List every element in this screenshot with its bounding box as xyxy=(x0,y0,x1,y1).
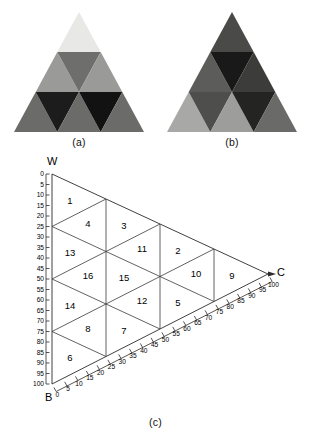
bottom-axis-tick-label: 85 xyxy=(237,297,245,304)
panel-b-svg xyxy=(167,8,297,133)
bottom-axis-tick-label: 50 xyxy=(162,336,170,343)
ternary-cell-number: 6 xyxy=(67,352,72,363)
left-axis-tick-label: 20 xyxy=(37,212,45,219)
ternary-cell-number: 9 xyxy=(229,270,234,281)
panel-a-svg xyxy=(14,8,144,133)
caption-b: (b) xyxy=(167,136,297,148)
bottom-axis-tick-label: 10 xyxy=(75,380,83,387)
left-axis-tick-label: 90 xyxy=(37,359,45,366)
vertex-label-w: W xyxy=(47,155,58,167)
bottom-axis-tick-label: 65 xyxy=(194,319,202,326)
ternary-cell-number: 8 xyxy=(85,323,90,334)
left-axis-tick-label: 40 xyxy=(37,254,45,261)
ternary-cell-number: 15 xyxy=(119,272,130,283)
ternary-cell-numbers: 13421113910151651214786 xyxy=(65,195,235,363)
ternary-cell-number: 12 xyxy=(137,295,148,306)
left-axis-tick-label: 0 xyxy=(40,170,44,177)
left-axis-tick-label: 5 xyxy=(40,181,44,188)
left-axis-tick-label: 80 xyxy=(37,338,45,345)
ternary-svg: W B C 0510152025303540455055606570758085… xyxy=(0,152,311,414)
bottom-axis-tick-label: 100 xyxy=(268,281,279,288)
ternary-cell-number: 7 xyxy=(121,325,126,336)
bottom-axis-tick-label: 35 xyxy=(129,352,137,359)
left-axis-tick-label: 65 xyxy=(37,307,45,314)
bottom-axis-tick-label: 95 xyxy=(259,286,267,293)
bottom-axis-tick-label: 45 xyxy=(151,341,159,348)
ternary-cell-number: 2 xyxy=(175,245,180,256)
panel-a-triangle xyxy=(14,8,144,133)
caption-c: (c) xyxy=(0,416,311,428)
left-axis-tick-label: 15 xyxy=(37,202,45,209)
ternary-cell-number: 10 xyxy=(191,268,202,279)
bottom-axis-tick-label: 55 xyxy=(173,330,181,337)
left-axis-tick-label: 55 xyxy=(37,286,45,293)
bottom-axis-tick-label: 20 xyxy=(97,369,105,376)
vertex-label-b: B xyxy=(45,391,52,403)
bottom-axis-tick-label: 75 xyxy=(216,308,224,315)
bottom-axis-tick-label: 30 xyxy=(119,358,127,365)
left-axis-tick-label: 100 xyxy=(33,380,44,387)
vertex-label-c: C xyxy=(277,266,285,278)
ternary-cell-number: 14 xyxy=(65,300,76,311)
panel-a-cell-0 xyxy=(57,12,100,52)
left-axis-tick-label: 50 xyxy=(37,275,45,282)
panel-b-triangle xyxy=(167,8,297,133)
ternary-cell-number: 13 xyxy=(65,247,76,258)
panel-b-cell-0 xyxy=(210,12,253,52)
left-axis-tick-label: 45 xyxy=(37,265,45,272)
bottom-axis-tick-label: 15 xyxy=(86,374,94,381)
left-axis-tick-label: 85 xyxy=(37,349,45,356)
left-axis-tick-label: 60 xyxy=(37,296,45,303)
ternary-cell-number: 11 xyxy=(137,243,147,254)
left-axis-tick-label: 30 xyxy=(37,233,45,240)
bottom-axis-tick-label: 40 xyxy=(140,347,148,354)
panel-a-cells xyxy=(14,12,144,132)
ternary-grid-line-b xyxy=(52,332,106,357)
panel-c-ternary-diagram: W B C 0510152025303540455055606570758085… xyxy=(0,152,311,414)
left-axis-tick-label: 95 xyxy=(37,370,45,377)
left-axis: 0510152025303540455055606570758085909510… xyxy=(33,170,50,387)
ternary-cell-number: 5 xyxy=(175,297,180,308)
panel-b-cells xyxy=(167,12,297,132)
ternary-cell-number: 4 xyxy=(85,218,90,229)
ternary-cell-number: 1 xyxy=(67,195,72,206)
ternary-cell-number: 3 xyxy=(121,220,126,231)
bottom-axis-tick-label: 80 xyxy=(227,303,235,310)
left-axis-tick-label: 70 xyxy=(37,317,45,324)
bottom-axis-tick-label: 70 xyxy=(205,314,213,321)
bottom-axis-tick-label: 5 xyxy=(66,385,70,392)
caption-a: (a) xyxy=(14,136,144,148)
bottom-axis-tick-label: 90 xyxy=(248,292,256,299)
bottom-axis-tick-label: 25 xyxy=(108,363,116,370)
ternary-cell-number: 16 xyxy=(83,270,94,281)
left-axis-tick-label: 35 xyxy=(37,244,45,251)
figure-root: (a) (b) W B C 05101520253035404 xyxy=(0,0,311,444)
bottom-axis-tick-label: 60 xyxy=(183,325,191,332)
ternary-grid-line-w xyxy=(52,199,106,227)
left-axis-tick-label: 25 xyxy=(37,223,45,230)
left-axis-tick-label: 75 xyxy=(37,328,45,335)
left-axis-tick-label: 10 xyxy=(37,191,45,198)
bottom-axis-tick-label: 0 xyxy=(56,391,60,398)
axis-arrow-c xyxy=(268,272,276,277)
